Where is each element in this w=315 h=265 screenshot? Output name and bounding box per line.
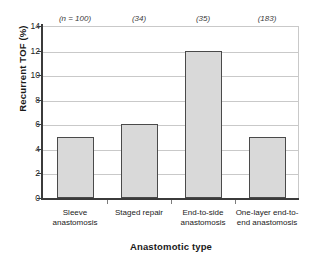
x-axis-category-label: Staged repair [104,208,174,218]
sample-size-annotation: (n = 100) [59,14,91,23]
bar [121,124,158,198]
gridline [43,52,298,53]
y-axis-tick-mark [37,198,42,199]
sample-size-annotation: (183) [258,14,277,23]
y-axis-tick-mark [37,149,42,150]
y-axis-tick-mark [37,26,42,27]
x-axis-category-label-line: Sleeve [40,208,110,218]
y-axis-tick-mark [37,173,42,174]
y-axis-tick-mark [37,100,42,101]
x-axis-tick-mark [235,200,236,204]
x-axis-category-label-line: end anastomosis [228,218,306,228]
x-axis-category-label-line: One-layer end-to- [228,208,306,218]
gridline [43,101,298,102]
y-axis-tick-labels: 02468101214 [16,26,40,198]
y-axis-tick-mark [37,124,42,125]
plot-area [43,26,299,198]
y-axis-tick-mark [37,75,42,76]
x-axis-spine [41,198,299,200]
gridline [43,125,298,126]
bar-chart-figure: Recurrent TOF (%) 02468101214 Anastomoti… [0,0,315,265]
x-axis-title: Anastomotic type [43,241,299,252]
x-axis-category-label-line: anastomosis [40,218,110,228]
y-axis-tick-mark [37,51,42,52]
bar [185,51,222,198]
x-axis-category-label: Sleeveanastomosis [40,208,110,228]
x-axis-category-label: One-layer end-to-end anastomosis [228,208,306,228]
bar [249,137,286,198]
x-axis-category-label-line: Staged repair [104,208,174,218]
sample-size-annotation: (34) [132,14,146,23]
x-axis-tick-mark [171,200,172,204]
sample-size-annotation: (35) [196,14,210,23]
bar [57,137,94,198]
gridline [43,76,298,77]
x-axis-tick-mark [107,200,108,204]
